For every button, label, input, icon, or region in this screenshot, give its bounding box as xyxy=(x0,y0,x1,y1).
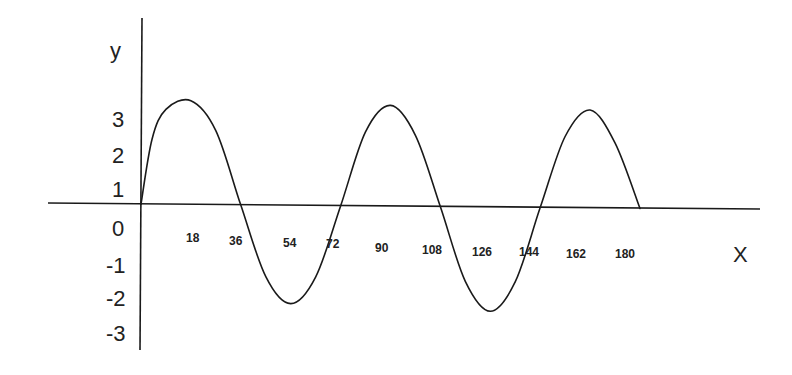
x-axis-name: X xyxy=(733,242,748,267)
x-tick-label: 90 xyxy=(375,241,389,255)
x-tick-label: 108 xyxy=(422,243,442,257)
x-tick-label: 36 xyxy=(229,234,243,248)
y-tick-label: -3 xyxy=(106,321,126,346)
x-tick-label: 162 xyxy=(566,247,586,261)
x-tick-label: 126 xyxy=(472,245,492,259)
y-tick-label: -2 xyxy=(106,286,126,311)
y-axis xyxy=(140,18,142,350)
x-tick-label: 180 xyxy=(615,247,635,261)
x-tick-label: 144 xyxy=(519,245,539,259)
x-tick-label: 54 xyxy=(283,236,297,250)
x-axis xyxy=(48,203,760,209)
y-tick-label: 0 xyxy=(112,216,124,241)
y-tick-label: 1 xyxy=(112,177,124,202)
y-tick-label: 3 xyxy=(112,107,124,132)
y-tick-label: -1 xyxy=(106,253,126,278)
x-tick-label: 18 xyxy=(186,231,200,245)
y-axis-name: y xyxy=(110,38,121,63)
y-tick-label: 2 xyxy=(112,143,124,168)
sine-wave-chart: y X 3 2 1 0 -1 -2 -3 18 36 54 72 90 108 … xyxy=(0,0,792,375)
